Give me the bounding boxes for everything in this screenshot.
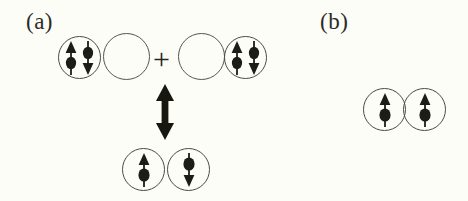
panel-label-a: (a): [26, 10, 53, 33]
resonance-arrow: [152, 84, 178, 140]
spin-up-arrow-icon: [377, 93, 393, 127]
plus-operator: +: [153, 44, 170, 74]
spin-down-arrow-icon: [80, 41, 96, 75]
orbital-single-down: [167, 148, 210, 191]
orbital-parallel-up-right: [403, 88, 446, 131]
orbital-single-up: [122, 148, 165, 191]
orbital-empty-right: [178, 33, 225, 80]
spin-up-arrow-icon: [417, 93, 433, 127]
orbital-empty-left: [103, 33, 150, 80]
spin-down-arrow-icon: [246, 41, 262, 75]
spin-up-arrow-icon: [63, 41, 79, 75]
spin-configuration-figure: (a) +: [0, 0, 468, 201]
orbital-doubly-occupied-right: [224, 36, 267, 79]
orbital-parallel-up-left: [363, 88, 406, 131]
spin-down-arrow-icon: [181, 153, 197, 187]
panel-label-b: (b): [320, 10, 348, 33]
spin-up-arrow-icon: [229, 41, 245, 75]
spin-up-arrow-icon: [136, 153, 152, 187]
orbital-doubly-occupied-left: [58, 36, 101, 79]
